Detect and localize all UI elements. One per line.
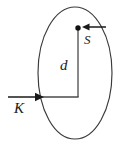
label-vector-s: S xyxy=(84,33,91,46)
figure-canvas: d S K xyxy=(0,0,123,148)
label-distance-d: d xyxy=(60,58,68,73)
point-dot-icon xyxy=(75,25,80,30)
label-vector-k: K xyxy=(14,101,24,116)
diagram-svg xyxy=(0,0,123,148)
